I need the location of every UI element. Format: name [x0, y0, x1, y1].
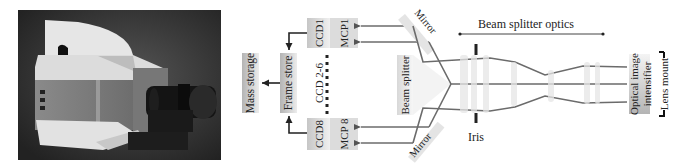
frame-store-label: Frame store — [282, 56, 294, 111]
ccd-2-6-group: CCD 2-6 — [313, 55, 327, 116]
mcp1-label: MCP1 — [338, 19, 350, 48]
detector-bottom: CCD8 MCP 8 — [307, 118, 358, 150]
intensifier-label-line1: Optical image — [628, 53, 640, 115]
lens-mount: Lens mount — [658, 52, 670, 116]
beam-splitter-label: Beam splitter — [399, 55, 411, 114]
beam-splitter-optics-dimension: Beam splitter optics — [458, 17, 604, 36]
intensifier-label-line2: intensifier — [641, 61, 653, 106]
arrow-ccd8-to-framestore — [289, 116, 307, 133]
arrow-ccd1-to-framestore — [289, 33, 307, 50]
schematic-diagram: Mass storage Frame store CCD1 MCP1 CCD 2… — [0, 0, 689, 167]
figure: Mass storage Frame store CCD1 MCP1 CCD 2… — [0, 0, 689, 167]
detector-top: CCD1 MCP1 — [307, 18, 358, 48]
ccd1-label: CCD1 — [313, 19, 325, 47]
ccd-2-6-label: CCD 2-6 — [313, 62, 325, 103]
beam-splitter: Beam splitter — [397, 55, 451, 115]
mcp8-label: MCP 8 — [338, 118, 350, 150]
lens-mount-label: Lens mount — [658, 58, 670, 110]
iris-label: Iris — [468, 130, 484, 144]
optical-image-intensifier: Optical image intensifier — [628, 53, 653, 115]
mass-storage-label: Mass storage — [244, 53, 257, 113]
beam-splitter-optics-label: Beam splitter optics — [478, 17, 574, 31]
frame-store-box: Frame store — [280, 53, 297, 113]
ccd8-label: CCD8 — [313, 119, 325, 148]
mass-storage-box: Mass storage — [242, 53, 259, 113]
